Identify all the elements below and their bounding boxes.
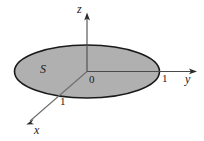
figure-canvas: S 0 z y x 1 1 [0, 0, 204, 141]
y-axis-label: y [184, 72, 191, 86]
x-axis-label: x [33, 123, 40, 137]
origin-label: 0 [89, 73, 95, 85]
unit-disk-diagram: S 0 z y x 1 1 [0, 0, 204, 141]
z-axis-label: z [76, 2, 82, 16]
x-axis-arrowhead [26, 119, 34, 125]
y-axis-tick-label-1: 1 [162, 72, 168, 84]
surface-label: S [40, 62, 46, 76]
x-axis-tick-label-1: 1 [60, 95, 66, 107]
